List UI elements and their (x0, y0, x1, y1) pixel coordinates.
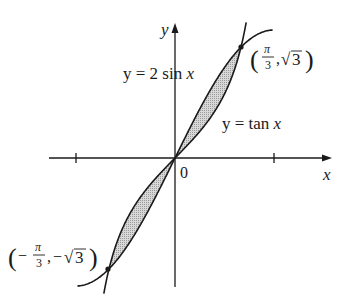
svg-text:3: 3 (75, 248, 84, 267)
svg-text:π: π (35, 240, 42, 254)
x-axis (49, 153, 332, 163)
x-arrow-icon (322, 155, 332, 162)
lower-intersection-label: ( − π 3 , − √ 3 ) (8, 240, 98, 272)
svg-text:(: ( (250, 45, 259, 74)
upper-intersection-label: ( π 3 , √ 3 ) (250, 42, 314, 74)
sine-curve-label: y = 2 sin x (123, 64, 194, 83)
tangent-curve-label: y = tan x (222, 114, 282, 133)
lower-intersection-point (105, 266, 110, 271)
diagram: y x 0 y = 2 sin x y = tan x ( π 3 , √ 3 … (0, 0, 347, 304)
svg-text:,: , (276, 50, 280, 67)
y-arrow-icon (172, 23, 179, 33)
svg-text:−: − (53, 248, 62, 265)
svg-text:3: 3 (265, 58, 271, 72)
svg-text:−: − (18, 247, 27, 264)
svg-text:π: π (264, 42, 271, 56)
svg-text:3: 3 (292, 50, 301, 69)
svg-text:√: √ (64, 248, 74, 267)
svg-text:,: , (47, 248, 51, 265)
svg-text:): ) (305, 45, 314, 74)
x-axis-label: x (322, 165, 331, 184)
svg-text:3: 3 (36, 256, 42, 270)
origin-label: 0 (180, 164, 188, 181)
svg-text:√: √ (281, 50, 291, 69)
y-axis-label: y (159, 20, 169, 39)
svg-text:): ) (89, 243, 98, 272)
svg-text:(: ( (8, 243, 17, 272)
upper-intersection-point (238, 44, 243, 49)
